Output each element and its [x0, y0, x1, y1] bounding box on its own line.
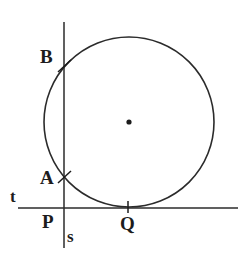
point-label-q: Q	[120, 214, 135, 233]
center-dot	[126, 119, 131, 124]
point-label-a: A	[40, 168, 54, 187]
geometry-diagram: B A P Q t s	[0, 0, 246, 254]
line-label-s: s	[67, 228, 74, 245]
point-label-b: B	[40, 47, 53, 66]
point-label-p: P	[42, 212, 54, 231]
line-label-t: t	[10, 188, 16, 205]
